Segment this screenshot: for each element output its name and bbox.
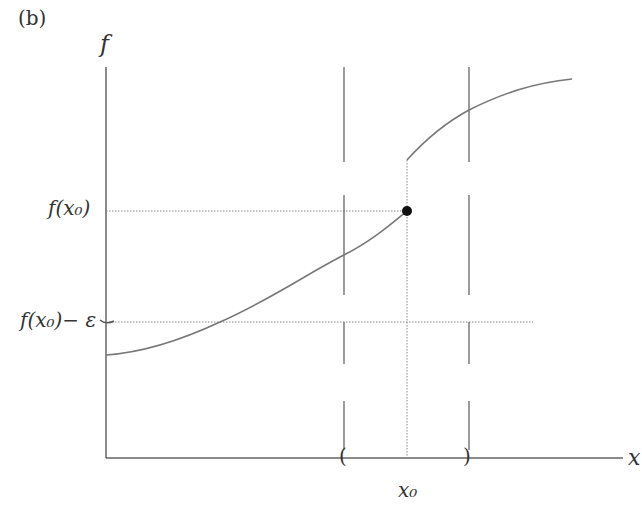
f-x0-label: f(x₀) — [48, 196, 90, 220]
x-axis-label: x — [628, 445, 640, 470]
diagram-canvas — [0, 0, 642, 505]
y-axis-label: f — [100, 30, 109, 58]
left-branch-curve — [106, 211, 407, 355]
left-paren: ( — [339, 444, 347, 468]
right-branch-curve — [407, 79, 572, 160]
epsilon-tick — [100, 320, 114, 323]
x0-label: x₀ — [398, 478, 417, 502]
right-paren: ) — [463, 444, 471, 468]
f-x0-minus-eps-label: f(x₀)− ε — [20, 308, 96, 332]
marked-point-dot — [402, 206, 412, 216]
panel-label: (b) — [18, 6, 46, 30]
